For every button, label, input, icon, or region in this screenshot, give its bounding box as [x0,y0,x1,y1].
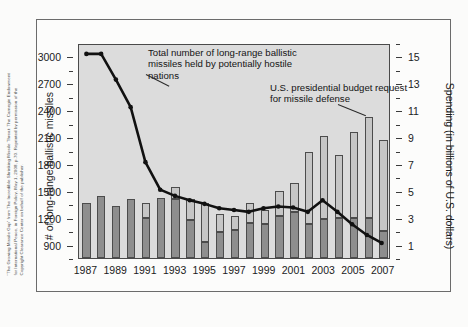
y-tick-right-mark [396,219,402,220]
line-point-1991 [143,160,148,165]
line-point-1989 [114,77,119,82]
y-tick-left-label: 2400 [38,105,61,117]
y-tick-right-minor [396,152,400,153]
line-point-1987 [84,52,89,57]
y-tick-left-mark [67,111,73,112]
y-tick-right-minor [396,178,400,179]
x-tick-label-1997: 1997 [222,264,245,276]
line-point-2000 [276,204,281,209]
y-tick-left-mark [67,219,73,220]
y-tick-left-minor [69,178,73,179]
line-point-2002 [306,210,311,215]
line-point-1997 [232,208,237,213]
line-point-1988 [99,52,104,57]
x-tick-label-1999: 1999 [252,264,275,276]
y-tick-right-minor [396,232,400,233]
y-tick-right-minor [396,205,400,206]
y-tick-left-minor [69,259,73,260]
y-tick-left-label: 3000 [38,51,61,63]
y-tick-left-mark [67,246,73,247]
y-tick-left-label: 900 [43,240,61,252]
y-tick-left-label: 1500 [38,186,61,198]
y-axis-right: 13579111315 [396,44,426,259]
y-tick-right-minor [396,125,400,126]
line-point-2005 [350,222,355,227]
line-point-1992 [158,187,163,192]
line-point-2007 [379,241,384,246]
y-tick-right-minor [396,44,400,45]
line-point-2001 [291,205,296,210]
y-tick-right-label: 7 [408,159,414,171]
y-tick-left-minor [69,125,73,126]
y-tick-left-mark [67,57,73,58]
y-tick-right-mark [396,165,402,166]
y-tick-left-label: 2100 [38,132,61,144]
y-tick-right-mark [396,192,402,193]
annotation-budget: U.S. presidential budget request for mis… [270,82,420,105]
y-tick-left-minor [69,71,73,72]
y-tick-right-label: 3 [408,213,414,225]
y-tick-left-mark [67,165,73,166]
y-tick-left-minor [69,98,73,99]
y-tick-left-label: 1200 [38,213,61,225]
y-tick-right-label: 9 [408,132,414,144]
y-tick-left-minor [69,232,73,233]
y-tick-left-minor [69,205,73,206]
y-tick-right-mark [396,246,402,247]
y-tick-right-mark [396,57,402,58]
x-tick-label-2003: 2003 [311,264,334,276]
y-tick-right-mark [396,111,402,112]
line-point-2004 [335,210,340,215]
line-point-1990 [128,105,133,110]
line-point-1996 [217,206,222,211]
x-axis: 1987198919911993199519971999200120032005… [78,262,390,278]
x-tick-label-1989: 1989 [103,264,126,276]
y-axis-left: 9001200150018002100240027003000 [38,44,73,259]
y-tick-right-label: 11 [408,105,419,117]
x-tick-label-2001: 2001 [282,264,305,276]
y-tick-right-label: 15 [408,51,420,63]
y-tick-left-label: 1800 [38,159,61,171]
annotation-missiles: Total number of long-range ballistic mis… [148,47,318,81]
source-credit: "The Growing Missile Gap" from The Incre… [6,70,26,275]
y-tick-right-minor [396,71,400,72]
x-tick-label-1991: 1991 [133,264,156,276]
y-tick-left-mark [67,84,73,85]
figure-root: "The Growing Missile Gap" from The Incre… [0,0,468,327]
x-tick-label-1987: 1987 [74,264,97,276]
line-point-1999 [261,206,266,211]
x-tick-label-1993: 1993 [163,264,186,276]
y-tick-right-minor [396,259,400,260]
y-axis-right-title: Spending (in billions of U.S. dollars) [444,71,456,261]
y-tick-left-mark [67,138,73,139]
line-point-2003 [320,198,325,203]
x-tick-label-2005: 2005 [341,264,364,276]
x-tick-label-1995: 1995 [193,264,216,276]
y-tick-left-minor [69,152,73,153]
y-tick-right-mark [396,138,402,139]
line-point-1998 [246,210,251,215]
y-tick-right-label: 5 [408,186,414,198]
line-point-1995 [202,202,207,207]
y-tick-left-label: 2700 [38,78,61,90]
y-tick-right-label: 1 [408,240,414,252]
line-point-2006 [365,233,370,238]
y-tick-left-mark [67,192,73,193]
x-tick-label-2007: 2007 [371,264,394,276]
line-point-1994 [187,198,192,203]
line-point-1993 [173,194,178,199]
